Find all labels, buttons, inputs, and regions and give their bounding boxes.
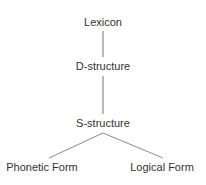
node-lexicon: Lexicon: [84, 17, 122, 28]
diagram-edges: [0, 0, 206, 185]
edge-sstructure-logical: [103, 133, 163, 158]
node-phonetic-form: Phonetic Form: [6, 162, 78, 173]
edge-sstructure-phonetic: [49, 133, 103, 158]
node-logical-form: Logical Form: [130, 162, 194, 173]
node-s-structure: S-structure: [76, 118, 130, 129]
node-d-structure: D-structure: [76, 61, 130, 72]
